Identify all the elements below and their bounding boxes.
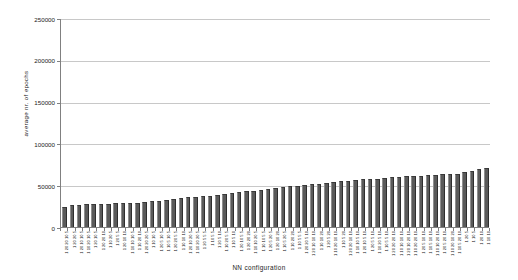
- bar: [135, 203, 140, 227]
- y-axis-tick-label: 250000: [0, 16, 55, 23]
- bar: [208, 196, 213, 227]
- bar: [164, 200, 169, 227]
- bar: [244, 191, 249, 227]
- bar: [310, 184, 315, 227]
- bar: [179, 198, 184, 227]
- bar: [361, 179, 366, 227]
- bar: [375, 179, 380, 227]
- bar: [281, 187, 286, 227]
- bar: [99, 204, 104, 227]
- bar: [113, 203, 118, 227]
- bar: [157, 201, 162, 227]
- bar: [477, 169, 482, 227]
- bar: [259, 190, 264, 227]
- bar: [397, 177, 402, 227]
- bar: [484, 168, 489, 227]
- bar: [230, 193, 235, 227]
- bar: [317, 184, 322, 227]
- y-axis-tick-label: 200000: [0, 57, 55, 64]
- bar: [266, 189, 271, 227]
- bar: [331, 182, 336, 227]
- bar: [77, 205, 82, 227]
- bar: [302, 185, 307, 227]
- bar: [171, 199, 176, 227]
- plot-area: [60, 19, 489, 228]
- y-axis-tick-label: 150000: [0, 99, 55, 106]
- bar: [339, 181, 344, 227]
- bar: [201, 196, 206, 227]
- bar: [404, 176, 409, 227]
- bar: [193, 197, 198, 228]
- bar: [222, 194, 227, 227]
- bar: [419, 176, 424, 227]
- bar: [353, 180, 358, 227]
- bar: [62, 207, 67, 227]
- y-axis-tick-label: 100000: [0, 141, 55, 148]
- bar: [128, 203, 133, 227]
- bar-series: [61, 18, 490, 227]
- bar: [346, 181, 351, 227]
- bar: [433, 175, 438, 227]
- bar: [251, 191, 256, 227]
- bar: [273, 188, 278, 227]
- bar: [324, 183, 329, 227]
- bar: [426, 175, 431, 227]
- bar: [470, 171, 475, 227]
- bar: [150, 201, 155, 227]
- y-axis-tick-label: 50000: [0, 183, 55, 190]
- bar: [186, 197, 191, 227]
- bar: [142, 202, 147, 227]
- y-axis-tick-label: 0: [0, 225, 55, 232]
- bar: [462, 172, 467, 227]
- bar: [84, 204, 89, 227]
- bar: [390, 177, 395, 227]
- bar: [368, 179, 373, 227]
- bar: [215, 195, 220, 227]
- bar: [70, 205, 75, 227]
- bar: [121, 203, 126, 227]
- bar: [91, 204, 96, 227]
- bar: [382, 178, 387, 227]
- bar: [295, 186, 300, 227]
- bar: [288, 186, 293, 227]
- bar-chart: average nr. of epochs 050000100000150000…: [0, 0, 518, 280]
- bar: [440, 174, 445, 227]
- bar: [455, 174, 460, 228]
- bar: [106, 204, 111, 227]
- bar: [448, 174, 453, 227]
- bar: [237, 192, 242, 227]
- x-axis-title: NN configuration: [0, 264, 518, 271]
- bar: [411, 176, 416, 227]
